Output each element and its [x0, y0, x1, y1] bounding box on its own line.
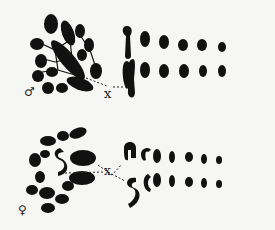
female-symbol: ♀ [18, 204, 27, 216]
diagram-graphics [0, 0, 275, 230]
chromosome-diagram: ♂ x ♀ x [0, 0, 275, 230]
female-karyotype [124, 142, 222, 208]
female-metaphase-cluster [26, 125, 96, 213]
male-x-chromosome-label: x [104, 87, 111, 100]
male-karyotype [123, 26, 226, 97]
male-metaphase-cluster [30, 14, 102, 94]
male-symbol: ♂ [24, 86, 35, 98]
female-x-chromosome-label: x [104, 165, 111, 177]
